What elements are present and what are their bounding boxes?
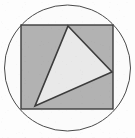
figure-svg: Circle with inscribed square and triangl…: [0, 0, 135, 138]
geometric-figure-canvas: Circle with inscribed square and triangl…: [0, 0, 135, 138]
